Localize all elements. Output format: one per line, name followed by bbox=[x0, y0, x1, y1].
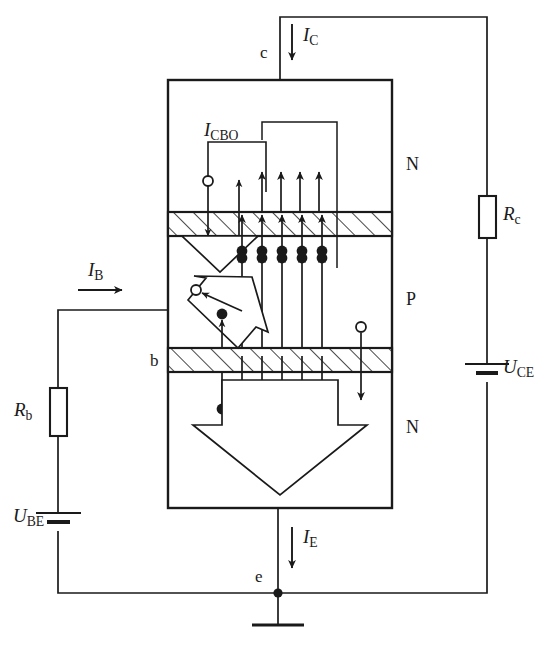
collector-resistor-symbol bbox=[479, 196, 496, 238]
source-subscript: CE bbox=[517, 365, 534, 380]
base-current-label: IB bbox=[88, 260, 103, 279]
circuit-diagram: c b e N P N IC IB IE ICBO Rc Rb UCE UBE bbox=[0, 0, 543, 645]
source-symbol: U bbox=[13, 505, 27, 526]
hole-glyph bbox=[356, 322, 366, 332]
current-subscript: C bbox=[309, 33, 318, 48]
collector-resistor-label: Rc bbox=[503, 204, 521, 223]
base-resistor-symbol bbox=[50, 388, 67, 436]
region-label-emitter: N bbox=[406, 418, 419, 436]
emitter-terminal-label: e bbox=[255, 568, 263, 585]
base-terminal-label: b bbox=[150, 352, 159, 369]
source-subscript: BE bbox=[27, 514, 44, 529]
current-subscript: B bbox=[94, 268, 103, 283]
hole-glyph bbox=[191, 285, 201, 295]
leakage-current-label: ICBO bbox=[204, 120, 238, 139]
resistor-subscript: c bbox=[515, 212, 521, 227]
base-emitter-source-label: UBE bbox=[13, 506, 44, 525]
hole-glyph bbox=[203, 176, 213, 186]
collector-current-label: IC bbox=[303, 25, 318, 44]
collector-base-junction bbox=[168, 212, 392, 236]
base-emitter-junction bbox=[168, 348, 392, 372]
resistor-symbol: R bbox=[14, 399, 26, 420]
region-label-base: P bbox=[406, 290, 416, 308]
collector-emitter-source-label: UCE bbox=[503, 357, 534, 376]
resistor-subscript: b bbox=[26, 408, 33, 423]
source-symbol: U bbox=[503, 356, 517, 377]
electron-glyph bbox=[217, 309, 228, 320]
region-label-collector: N bbox=[406, 155, 419, 173]
emitter-current-label: IE bbox=[303, 527, 318, 546]
diagram-canvas bbox=[0, 0, 543, 645]
current-subscript: E bbox=[309, 535, 317, 550]
collector-terminal-label: c bbox=[260, 44, 268, 61]
ground-symbol bbox=[252, 593, 304, 625]
current-subscript: CBO bbox=[210, 128, 238, 143]
resistor-symbol: R bbox=[503, 203, 515, 224]
base-resistor-label: Rb bbox=[14, 400, 32, 419]
